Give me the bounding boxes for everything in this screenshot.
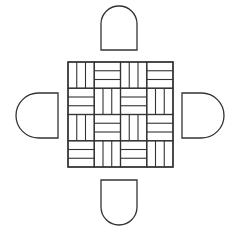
chair-bottom: [101, 180, 137, 225]
floor-plan-canvas: [0, 0, 230, 234]
chair-right: [182, 93, 224, 138]
square-parquet-table: [68, 62, 173, 167]
chair-top: [101, 6, 137, 50]
chair-left: [16, 93, 58, 138]
